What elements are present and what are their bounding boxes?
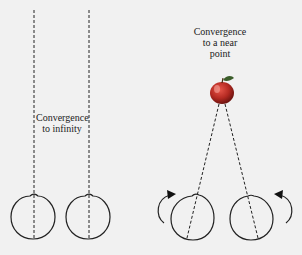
- label-near-line3: point: [186, 48, 254, 59]
- rotation-arrow-right: [274, 190, 292, 223]
- label-near-line2: to a near: [186, 37, 254, 48]
- label-infinity-line1: Convergence: [36, 112, 88, 123]
- apple-icon: [210, 76, 234, 104]
- eye-left-2: [66, 194, 110, 239]
- label-infinity-line2: to infinity: [36, 123, 88, 134]
- vergence-diagram: Convergence to infinity Convergence to a…: [0, 0, 302, 255]
- eye-right-2: [230, 195, 273, 240]
- eye-left-1: [11, 194, 55, 239]
- rotation-arrow-left: [158, 190, 176, 223]
- label-convergence-infinity: Convergence to infinity: [36, 112, 88, 134]
- eye-right-1: [171, 194, 214, 240]
- label-near-line1: Convergence: [186, 26, 254, 37]
- label-convergence-near: Convergence to a near point: [186, 26, 254, 59]
- converging-sight-lines: [187, 104, 258, 238]
